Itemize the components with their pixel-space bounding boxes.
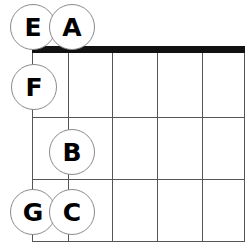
note-marker-f[interactable]: F bbox=[11, 64, 57, 110]
note-marker-c[interactable]: C bbox=[49, 189, 95, 235]
note-label: C bbox=[63, 200, 81, 225]
string-line bbox=[202, 53, 203, 242]
fret-line bbox=[32, 117, 245, 118]
note-marker-b[interactable]: B bbox=[49, 129, 95, 175]
fret-line bbox=[32, 241, 245, 242]
string-line bbox=[244, 53, 245, 242]
note-label: F bbox=[25, 75, 42, 100]
note-label: B bbox=[62, 140, 81, 165]
note-label: E bbox=[24, 15, 41, 40]
string-line bbox=[112, 53, 113, 242]
note-marker-a[interactable]: A bbox=[49, 4, 95, 50]
string-line bbox=[157, 53, 158, 242]
fret-line bbox=[32, 179, 245, 180]
note-label: G bbox=[23, 200, 44, 225]
note-label: A bbox=[62, 15, 81, 40]
fretboard-diagram: E A F B G C bbox=[0, 0, 252, 248]
